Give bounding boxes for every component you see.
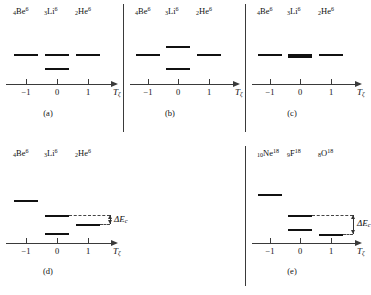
energy-level-a-1 xyxy=(45,54,69,56)
axis-tick-e-2 xyxy=(331,238,332,243)
nuclide-label-o-e: 8O18 xyxy=(318,148,333,158)
axis-tick-label-b-0: −1 xyxy=(138,87,158,97)
energy-level-a-2 xyxy=(76,54,100,56)
delta-dash-upper-d xyxy=(69,215,110,216)
axis-label-d: Tζ xyxy=(113,246,121,256)
energy-level-d-2 xyxy=(76,224,100,226)
isospin-axis-d xyxy=(6,243,111,244)
nuclide-label-be-c: 4Be6 xyxy=(257,6,272,16)
axis-tick-a-0 xyxy=(26,79,27,84)
axis-tick-d-0 xyxy=(26,238,27,243)
axis-tick-e-0 xyxy=(270,238,271,243)
axis-tick-label-a-2: 1 xyxy=(78,87,98,97)
nuclide-label-ne-e: 10Ne18 xyxy=(257,148,279,158)
energy-level-b-0 xyxy=(136,54,160,56)
axis-tick-c-1 xyxy=(300,79,301,84)
axis-tick-label-a-1: 0 xyxy=(47,87,67,97)
axis-tick-label-b-1: 0 xyxy=(168,87,188,97)
delta-energy-label-d: ΔEc xyxy=(114,214,128,224)
axis-label-a: Tζ xyxy=(113,87,121,97)
axis-tick-c-2 xyxy=(331,79,332,84)
panel-caption-e: (e) xyxy=(277,266,307,276)
axis-label-b: Tζ xyxy=(235,87,243,97)
panel-divider-3 xyxy=(245,146,246,286)
delta-dash-upper-e xyxy=(312,215,353,216)
panel-caption-c: (c) xyxy=(277,108,307,118)
energy-level-b-2 xyxy=(197,54,221,56)
nuclide-label-li-b: 3Li6 xyxy=(165,6,179,16)
axis-tick-d-2 xyxy=(88,238,89,243)
axis-tick-label-c-1: 0 xyxy=(290,87,310,97)
nuclide-label-be-a: 4Be6 xyxy=(13,6,28,16)
axis-tick-b-2 xyxy=(209,79,210,84)
nuclide-label-li-a: 3Li6 xyxy=(44,6,58,16)
energy-level-c-2 xyxy=(319,54,343,56)
energy-level-d-1 xyxy=(45,215,69,217)
axis-tick-c-0 xyxy=(270,79,271,84)
energy-level-e-2 xyxy=(319,234,343,236)
axis-tick-label-e-0: −1 xyxy=(260,246,280,256)
axis-tick-label-b-2: 1 xyxy=(199,87,219,97)
panel-divider-2 xyxy=(245,4,246,132)
energy-level-c-0 xyxy=(258,54,282,56)
isospin-axis-b xyxy=(130,84,233,85)
nuclide-label-he-c: 2He6 xyxy=(318,6,334,16)
axis-tick-label-c-0: −1 xyxy=(260,87,280,97)
isospin-axis-c xyxy=(252,84,355,85)
nuclide-label-li-c: 3Li6 xyxy=(287,6,301,16)
axis-tick-d-1 xyxy=(57,238,58,243)
panel-divider-1 xyxy=(123,4,124,132)
axis-tick-label-d-1: 0 xyxy=(47,246,67,256)
delta-dash-lower-d xyxy=(100,224,110,225)
nuclide-label-he-d: 2He6 xyxy=(75,148,91,158)
axis-tick-label-e-1: 0 xyxy=(290,246,310,256)
nuclide-label-f-e: 9F18 xyxy=(287,148,301,158)
panel-caption-d: (d) xyxy=(33,266,63,276)
delta-dash-lower-e xyxy=(343,234,353,235)
nuclide-label-be-b: 4Be6 xyxy=(135,6,150,16)
nuclide-label-be-d: 4Be6 xyxy=(13,148,28,158)
nuclide-label-li-d: 3Li6 xyxy=(44,148,58,158)
delta-arrow-head-down-d xyxy=(108,220,112,224)
panel-caption-b: (b) xyxy=(155,108,185,118)
axis-tick-label-a-0: −1 xyxy=(16,87,36,97)
delta-arrow-head-down-e xyxy=(351,230,355,234)
axis-tick-b-0 xyxy=(148,79,149,84)
energy-level-d-3 xyxy=(45,233,69,235)
axis-label-e: Tζ xyxy=(357,246,365,256)
isospin-axis-e xyxy=(252,243,355,244)
energy-level-b-1 xyxy=(166,46,190,48)
isospin-axis-a xyxy=(6,84,111,85)
energy-level-e-3 xyxy=(288,229,312,231)
axis-tick-label-d-2: 1 xyxy=(78,246,98,256)
energy-level-d-0 xyxy=(14,200,38,202)
panel-caption-a: (a) xyxy=(33,108,63,118)
axis-tick-label-d-0: −1 xyxy=(16,246,36,256)
nuclide-label-he-b: 2He6 xyxy=(196,6,212,16)
energy-level-e-0 xyxy=(258,194,282,196)
delta-arrow-head-up-d xyxy=(108,215,112,219)
delta-energy-label-e: ΔEc xyxy=(357,218,371,228)
axis-tick-b-1 xyxy=(178,79,179,84)
axis-label-c: Tζ xyxy=(357,87,365,97)
delta-arrow-head-up-e xyxy=(351,215,355,219)
energy-level-c-1 xyxy=(288,54,312,58)
axis-tick-label-c-2: 1 xyxy=(321,87,341,97)
energy-level-e-1 xyxy=(288,215,312,217)
axis-tick-a-2 xyxy=(88,79,89,84)
axis-tick-a-1 xyxy=(57,79,58,84)
energy-level-a-0 xyxy=(14,54,38,56)
axis-tick-label-e-2: 1 xyxy=(321,246,341,256)
energy-level-b-3 xyxy=(166,68,190,70)
energy-level-a-3 xyxy=(45,68,69,70)
nuclide-label-he-a: 2He6 xyxy=(75,6,91,16)
axis-tick-e-1 xyxy=(300,238,301,243)
